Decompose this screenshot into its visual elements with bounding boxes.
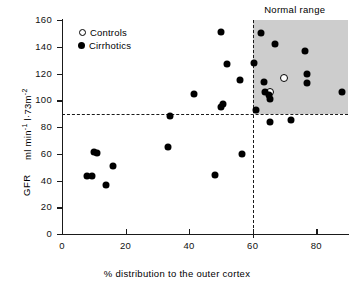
y-tick-label-20: 20 <box>22 201 52 212</box>
filled-circle-icon <box>78 42 85 49</box>
data-point-cirrhotic <box>267 118 274 125</box>
y-tick-0 <box>57 234 62 235</box>
x-tick-80 <box>316 229 317 234</box>
x-tick-label-0: 0 <box>47 240 77 251</box>
y-axis-line <box>62 19 63 235</box>
data-point-cirrhotic <box>251 59 258 66</box>
data-point-cirrhotic <box>267 95 274 102</box>
data-point-cirrhotic <box>165 144 172 151</box>
data-point-cirrhotic <box>217 29 224 36</box>
y-tick-label-160: 160 <box>22 14 52 25</box>
data-point-cirrhotic <box>238 151 245 158</box>
data-point-cirrhotic <box>220 101 227 108</box>
y-tick-label-0: 0 <box>22 228 52 239</box>
x-tick-label-20: 20 <box>111 240 141 251</box>
data-point-cirrhotic <box>211 172 218 179</box>
legend-item-cirrhotics: Cirrhotics <box>78 39 131 52</box>
data-point-control <box>280 74 288 82</box>
legend-item-controls: Controls <box>78 26 131 39</box>
reference-line-vertical-60 <box>253 20 254 238</box>
y-tick-60 <box>57 154 62 155</box>
y-axis-units-label: ml min-1 l·73m-2 <box>21 88 33 160</box>
x-tick-label-80: 80 <box>301 240 331 251</box>
data-point-cirrhotic <box>287 117 294 124</box>
reference-line-horizontal-90 <box>62 114 348 115</box>
open-circle-icon <box>79 29 86 36</box>
data-point-cirrhotic <box>338 89 345 96</box>
data-point-cirrhotic <box>190 90 197 97</box>
y-axis-title: GFR <box>21 174 32 196</box>
data-point-cirrhotic <box>260 78 267 85</box>
normal-range-annotation: Normal range <box>264 4 325 15</box>
data-point-cirrhotic <box>257 30 264 37</box>
legend-label-cirrhotics: Cirrhotics <box>89 40 131 51</box>
y-tick-160 <box>57 20 62 21</box>
data-point-cirrhotic <box>224 61 231 68</box>
x-tick-60 <box>253 229 254 234</box>
data-point-cirrhotic <box>89 173 96 180</box>
y-tick-140 <box>57 47 62 48</box>
data-point-cirrhotic <box>236 76 243 83</box>
x-tick-40 <box>189 229 190 234</box>
data-point-cirrhotic <box>302 47 309 54</box>
legend-label-controls: Controls <box>90 27 127 38</box>
x-axis-line <box>61 234 349 235</box>
y-tick-40 <box>57 181 62 182</box>
data-point-cirrhotic <box>303 79 310 86</box>
x-tick-label-40: 40 <box>174 240 204 251</box>
x-axis-title: % distribution to the outer cortex <box>0 268 354 279</box>
y-tick-120 <box>57 74 62 75</box>
y-tick-80 <box>57 127 62 128</box>
scatter-plot-figure: Normal range 020406080100120140160020406… <box>0 0 354 286</box>
data-point-cirrhotic <box>109 162 116 169</box>
data-point-cirrhotic <box>93 150 100 157</box>
data-point-cirrhotic <box>103 181 110 188</box>
y-tick-label-140: 140 <box>22 41 52 52</box>
data-point-cirrhotic <box>252 106 259 113</box>
y-tick-20 <box>57 207 62 208</box>
y-tick-100 <box>57 100 62 101</box>
data-point-cirrhotic <box>303 70 310 77</box>
legend: Controls Cirrhotics <box>78 26 131 52</box>
data-point-cirrhotic <box>167 113 174 120</box>
data-point-cirrhotic <box>271 41 278 48</box>
x-tick-20 <box>126 229 127 234</box>
y-tick-label-120: 120 <box>22 68 52 79</box>
x-tick-label-60: 60 <box>238 240 268 251</box>
